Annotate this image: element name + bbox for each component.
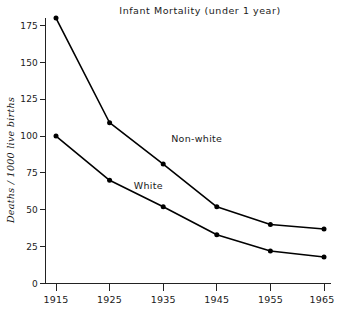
data-point [322,226,327,231]
data-point [161,204,166,209]
series-label-non-white: Non-white [171,133,222,144]
data-point [214,232,219,237]
data-point [322,254,327,259]
data-point [107,120,112,125]
data-point [268,222,273,227]
y-tick-label-150: 150 [20,58,38,68]
y-tick-label-100: 100 [20,131,38,141]
infant-mortality-line-chart: Infant Mortality (under 1 year) Deaths /… [0,0,338,316]
chart-title: Infant Mortality (under 1 year) [119,5,280,16]
chart-figure: Infant Mortality (under 1 year) Deaths /… [0,0,338,316]
y-tick-label-50: 50 [26,205,38,215]
y-tick-label-175: 175 [20,21,38,31]
chart-background [0,0,338,316]
y-tick-label-125: 125 [20,94,38,104]
data-point [107,178,112,183]
x-tick-label-1945: 1945 [204,294,229,305]
x-tick-label-1915: 1915 [44,294,69,305]
data-point [268,249,273,254]
x-tick-label-1955: 1955 [258,294,283,305]
data-point [54,134,59,139]
y-axis-label: Deaths / 1000 live births [5,97,16,224]
x-tick-label-1965: 1965 [310,294,335,305]
y-tick-label-75: 75 [26,168,38,178]
series-label-white: White [134,180,163,191]
x-tick-label-1935: 1935 [151,294,176,305]
y-tick-label-0: 0 [32,279,38,289]
x-tick-label-1925: 1925 [97,294,122,305]
data-point [54,16,59,21]
data-point [161,162,166,167]
y-tick-label-25: 25 [26,242,38,252]
data-point [214,204,219,209]
